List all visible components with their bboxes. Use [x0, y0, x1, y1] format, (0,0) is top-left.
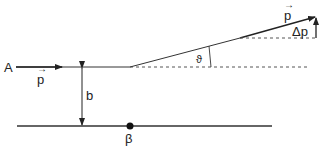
target-label: β: [125, 132, 132, 145]
deflected-trajectory: [130, 38, 240, 67]
vector-p-in: p: [37, 73, 44, 86]
scattering-angle-label: ϑ: [196, 54, 202, 65]
particle-label: A: [4, 61, 13, 74]
scattering-diagram: [0, 0, 322, 146]
vector-p-out: p: [284, 9, 291, 22]
impact-parameter-label: b: [86, 89, 93, 102]
outgoing-momentum-label: p: [284, 9, 291, 22]
momentum-transfer-label: Δp: [292, 25, 308, 38]
incoming-momentum-label: p: [37, 73, 44, 86]
angle-marker: [209, 46, 211, 67]
target-particle-dot: [127, 123, 134, 130]
